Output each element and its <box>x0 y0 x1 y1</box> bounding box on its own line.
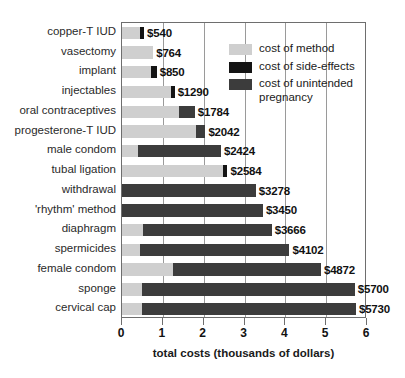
x-tick-label: 2 <box>199 326 206 340</box>
bar-value-label: $540 <box>147 27 172 39</box>
legend-label: cost of method <box>259 42 334 56</box>
category-label: sponge <box>78 279 116 299</box>
bar-value-label: $3666 <box>275 224 306 236</box>
x-tick <box>244 318 245 325</box>
legend-swatch-side-effects <box>229 62 252 73</box>
category-label: copper-T IUD <box>47 22 116 42</box>
bar-value-label: $2042 <box>208 126 239 138</box>
bar-segment <box>122 303 142 315</box>
x-tick-label: 0 <box>118 326 125 340</box>
category-label: diaphragm <box>62 219 116 239</box>
bar-segment <box>122 283 142 295</box>
bar-value-label: $850 <box>160 66 185 78</box>
category-label: injectables <box>62 81 116 101</box>
bar-segment <box>142 283 354 295</box>
x-tick-label: 6 <box>363 326 370 340</box>
bar-row: $5730 <box>122 299 365 319</box>
bar-value-label: $3450 <box>266 204 297 216</box>
bar-row: $540 <box>122 23 365 43</box>
bar-value-label: $4102 <box>292 244 323 256</box>
category-label: tubal ligation <box>51 160 116 180</box>
bar-segment <box>122 204 263 216</box>
legend: cost of methodcost of side-effectscost o… <box>229 42 401 108</box>
bar-value-label: $2424 <box>224 145 255 157</box>
bar-segment <box>122 27 140 39</box>
bar-row: $5700 <box>122 280 365 300</box>
category-label: vasectomy <box>61 42 116 62</box>
bar-value-label: $1784 <box>198 106 229 118</box>
bar-value-label: $764 <box>156 47 181 59</box>
x-tick <box>203 318 204 325</box>
bar-value-label: $3278 <box>259 185 290 197</box>
bar-row: $4102 <box>122 240 365 260</box>
legend-label: cost of unintended pregnancy <box>259 77 391 104</box>
category-label: implant <box>79 61 116 81</box>
category-label: withdrawal <box>62 180 116 200</box>
bar-segment <box>122 46 153 58</box>
bar-segment <box>122 263 173 275</box>
bar-segment <box>143 224 271 236</box>
bar-segment <box>140 244 289 256</box>
bar-segment <box>173 263 321 275</box>
bar-segment <box>138 145 221 157</box>
bar-segment <box>122 224 143 236</box>
bar-segment <box>171 86 175 98</box>
legend-item[interactable]: cost of method <box>229 42 401 56</box>
bar-segment <box>122 184 256 196</box>
bar-segment <box>179 106 195 118</box>
legend-item[interactable]: cost of side-effects <box>229 60 401 74</box>
bar-segment <box>122 145 138 157</box>
category-axis-labels: copper-T IUDvasectomyimplantinjectableso… <box>0 22 116 318</box>
bar-segment <box>142 303 356 315</box>
x-axis-title: total costs (thousands of dollars) <box>121 347 366 359</box>
x-tick-label: 3 <box>240 326 247 340</box>
bar-row: $3278 <box>122 181 365 201</box>
legend-label: cost of side-effects <box>259 60 355 74</box>
x-tick <box>284 318 285 325</box>
category-label: 'rhythm' method <box>35 200 116 220</box>
x-tick <box>121 318 122 325</box>
bar-value-label: $1290 <box>178 86 209 98</box>
bar-value-label: $5700 <box>358 283 389 295</box>
bar-value-label: $5730 <box>359 303 390 315</box>
x-tick-label: 4 <box>281 326 288 340</box>
x-tick <box>162 318 163 325</box>
bar-segment <box>223 165 228 177</box>
x-tick-label: 5 <box>322 326 329 340</box>
category-label: progesterone-T IUD <box>15 121 116 141</box>
bar-segment <box>140 27 144 39</box>
bar-segment <box>122 86 171 98</box>
x-tick <box>325 318 326 325</box>
legend-swatch-method <box>229 44 252 55</box>
category-label: female condom <box>37 259 116 279</box>
bar-segment <box>122 106 179 118</box>
category-label: oral contraceptives <box>19 101 116 121</box>
bar-row: $4872 <box>122 260 365 280</box>
x-tick <box>366 318 367 325</box>
bar-row: $2042 <box>122 122 365 142</box>
category-label: cervical cap <box>55 298 116 318</box>
x-axis-tick-labels: 0123456 <box>0 326 405 342</box>
bar-segment <box>151 66 156 78</box>
bar-row: $3666 <box>122 220 365 240</box>
category-label: male condom <box>47 140 116 160</box>
category-label: spermicides <box>55 239 116 259</box>
bar-chart: copper-T IUDvasectomyimplantinjectableso… <box>0 0 405 378</box>
x-axis-ticks <box>121 318 366 325</box>
bar-segment <box>122 244 140 256</box>
bar-segment <box>122 66 151 78</box>
bar-row: $2584 <box>122 161 365 181</box>
bar-segment <box>122 165 223 177</box>
legend-item[interactable]: cost of unintended pregnancy <box>229 77 401 104</box>
bar-segment <box>196 125 206 137</box>
bar-value-label: $4872 <box>324 264 355 276</box>
bar-row: $2424 <box>122 141 365 161</box>
bar-segment <box>122 125 196 137</box>
legend-swatch-unintended-pregnancy <box>229 79 252 90</box>
bar-row: $3450 <box>122 201 365 221</box>
x-tick-label: 1 <box>158 326 165 340</box>
bar-value-label: $2584 <box>231 165 262 177</box>
